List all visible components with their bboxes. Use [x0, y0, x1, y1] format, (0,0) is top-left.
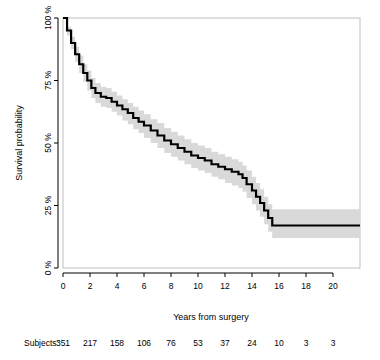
- risk-table-count: 76: [166, 338, 176, 348]
- x-axis-tick-label: 0: [61, 281, 66, 291]
- x-axis-tick-label: 12: [220, 281, 230, 291]
- y-axis-title: Survival probability: [14, 105, 24, 181]
- risk-table-count: 10: [274, 338, 284, 348]
- risk-table-count: 37: [220, 338, 230, 348]
- chart-background: [0, 0, 380, 360]
- y-axis-tick-label: 100 %: [43, 6, 53, 31]
- x-axis-tick-label: 10: [193, 281, 203, 291]
- risk-table-count: 3: [331, 338, 336, 348]
- kaplan-meier-chart: 0 %25 %50 %75 %100 % 02468101214161820 S…: [0, 0, 380, 360]
- x-axis-title: Years from surgery: [173, 312, 249, 322]
- risk-table-count: 3: [304, 338, 309, 348]
- risk-table-count: 351: [56, 338, 70, 348]
- risk-table-label: Subjects:: [24, 338, 59, 348]
- x-axis-tick-label: 2: [88, 281, 93, 291]
- survival-plot-figure: 0 %25 %50 %75 %100 % 02468101214161820 S…: [0, 0, 380, 360]
- x-axis-tick-label: 14: [247, 281, 257, 291]
- x-axis-tick-label: 6: [142, 281, 147, 291]
- risk-table-count: 106: [137, 338, 151, 348]
- y-axis-tick-label: 50 %: [43, 133, 53, 153]
- x-axis-tick-label: 18: [301, 281, 311, 291]
- y-axis-tick-label: 0 %: [43, 260, 53, 275]
- x-axis-tick-label: 4: [115, 281, 120, 291]
- y-axis-tick-label: 25 %: [43, 195, 53, 215]
- risk-table-count: 158: [110, 338, 124, 348]
- y-axis-tick-label: 75 %: [43, 70, 53, 90]
- x-axis-tick-label: 16: [274, 281, 284, 291]
- risk-table-count: 53: [193, 338, 203, 348]
- risk-table-count: 217: [83, 338, 97, 348]
- x-axis-tick-label: 8: [169, 281, 174, 291]
- risk-table-count: 24: [247, 338, 257, 348]
- x-axis-tick-label: 20: [328, 281, 338, 291]
